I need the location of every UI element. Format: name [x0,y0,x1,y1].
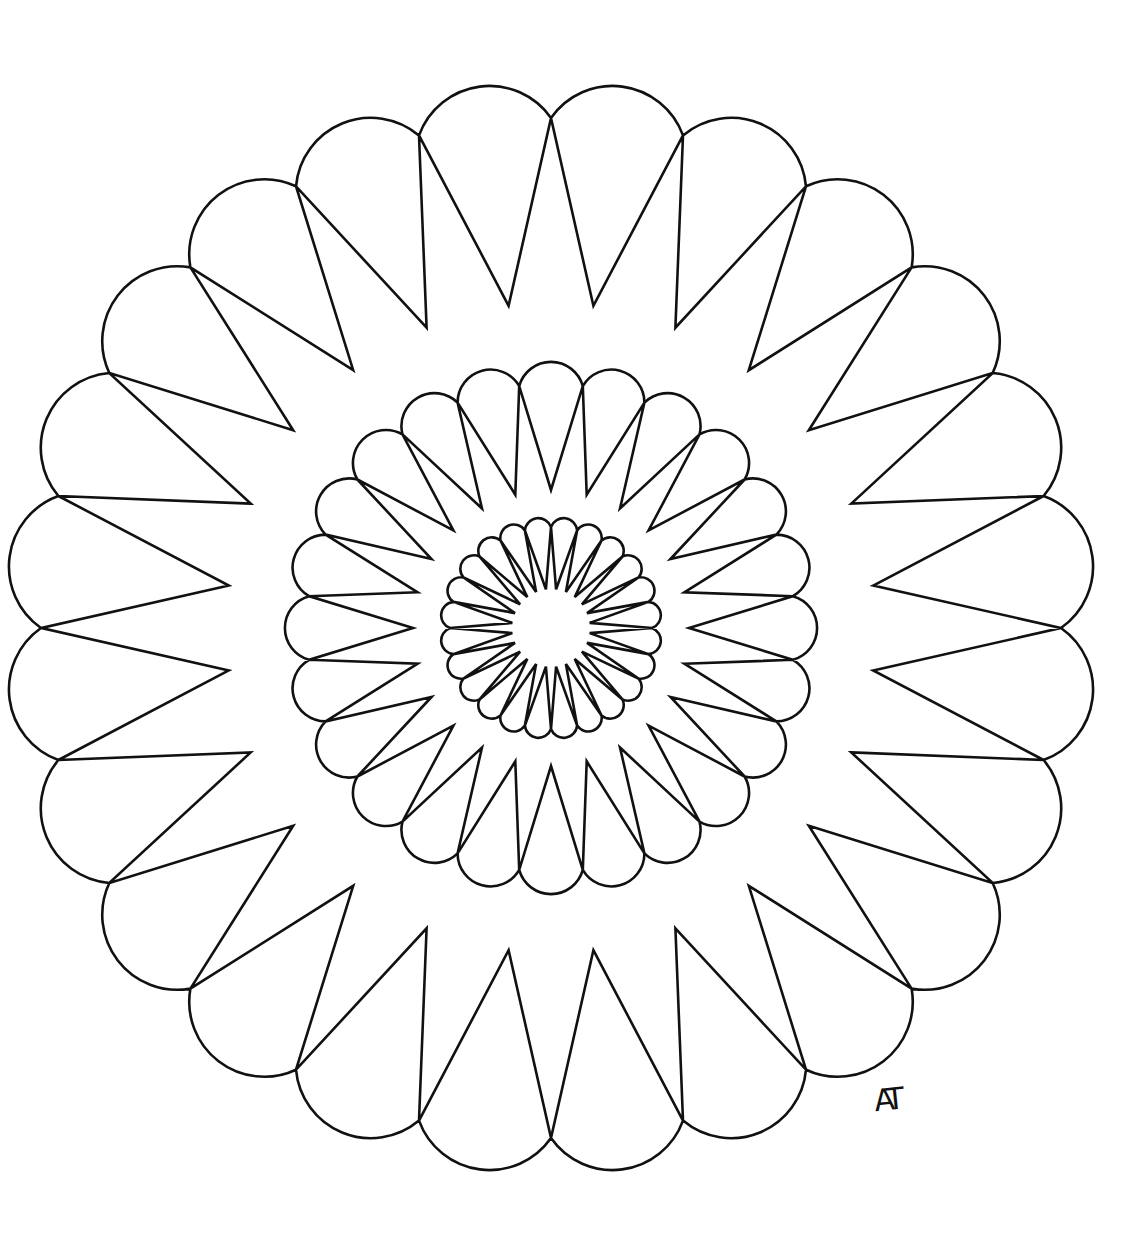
inner-ring-petals [441,518,661,738]
middle-ring [285,362,817,894]
artist-signature: AT [872,1081,900,1118]
mandala-rings [9,86,1093,1170]
mandala-drawing [0,0,1144,1244]
outer-ring-petals [9,86,1093,1170]
middle-ring-petals [285,362,817,894]
inner-ring [441,518,661,738]
outer-ring [9,86,1093,1170]
